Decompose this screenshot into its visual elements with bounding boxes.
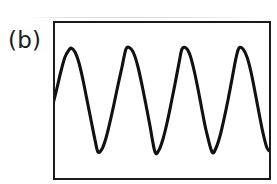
figure-panel: (b) [0,0,277,184]
waveform-plot [55,23,269,178]
plot-frame [53,21,271,180]
panel-label: (b) [8,27,41,53]
waveform-trace [55,47,269,154]
scan-artifact-line [30,17,260,18]
